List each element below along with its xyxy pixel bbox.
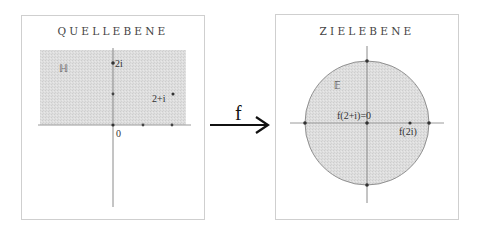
source-panel-title: QUELLEBENE <box>58 25 169 37</box>
target-panel: ZIELEBENE 𝔼 f(2+i)=0 f(2i) <box>276 15 459 220</box>
region-label-E: 𝔼 <box>334 80 341 91</box>
label-origin: 0 <box>116 128 121 139</box>
map-label-f: f <box>235 102 242 124</box>
source-panel: QUELLEBENE ℍ 2i 2+i 0 <box>22 16 205 220</box>
point-left <box>303 121 307 125</box>
region-label-H: ℍ <box>59 63 68 74</box>
label-2-plus-i: 2+i <box>152 93 166 104</box>
point-i <box>112 93 115 96</box>
point-2 <box>171 124 174 127</box>
label-f-2-plus-i: f(2+i)=0 <box>337 110 371 122</box>
point-1 <box>142 124 145 127</box>
label-2i: 2i <box>115 58 123 69</box>
point-right <box>427 121 431 125</box>
point-f-2i <box>408 121 411 124</box>
label-f-2i: f(2i) <box>399 126 417 138</box>
point-2-plus-i <box>172 93 175 96</box>
point-f-2-plus-i <box>365 121 369 125</box>
target-panel-title: ZIELEBENE <box>320 25 415 37</box>
map-arrow: f <box>210 102 268 133</box>
point-origin <box>111 123 114 126</box>
point-bottom <box>365 183 369 187</box>
mapping-diagram: QUELLEBENE ℍ 2i 2+i 0 f <box>0 0 479 233</box>
point-top <box>365 59 369 63</box>
